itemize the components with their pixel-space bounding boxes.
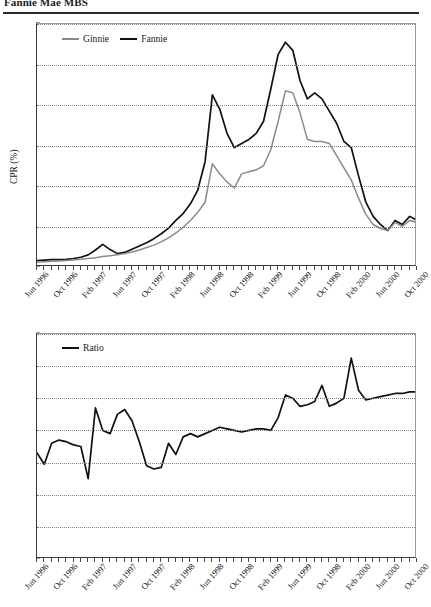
ratio-plot-area: [36, 333, 416, 558]
gridline: [37, 463, 415, 464]
x-tick-label: Oct 1998: [227, 562, 255, 592]
x-tick-label: Feb 1997: [81, 270, 109, 300]
x-tick-mark: [146, 266, 147, 270]
x-tick-mark: [168, 558, 169, 562]
x-tick-mark: [138, 558, 139, 562]
x-tick-mark: [168, 266, 169, 270]
x-tick-mark: [226, 266, 227, 270]
x-tick-mark: [153, 266, 154, 270]
x-tick-mark: [65, 266, 66, 270]
x-tick-mark: [153, 558, 154, 562]
gridline: [37, 334, 415, 335]
legend-item-fannie: Fannie: [120, 34, 167, 44]
x-tick-mark: [124, 266, 125, 270]
x-tick-mark: [36, 266, 37, 270]
x-tick-mark: [94, 266, 95, 270]
x-tick-mark: [284, 266, 285, 270]
x-tick-mark: [401, 558, 402, 562]
ratio-series-lines: [37, 334, 416, 558]
x-tick-label: Jun 1998: [198, 562, 226, 591]
x-tick-mark: [387, 266, 388, 270]
x-tick-mark: [109, 266, 110, 270]
gridline: [37, 24, 415, 25]
gridline: [37, 146, 415, 147]
legend-item-ginnie: Ginnie: [62, 34, 109, 44]
x-tick-mark: [255, 266, 256, 270]
gridline: [37, 65, 415, 66]
x-tick-label: Oct 1998: [227, 270, 255, 300]
x-tick-mark: [379, 558, 380, 562]
x-tick-mark: [255, 558, 256, 562]
legend-item-ratio: Ratio: [62, 343, 104, 353]
x-tick-label: Oct 1996: [52, 270, 80, 300]
x-tick-mark: [372, 558, 373, 562]
x-tick-label: Jun 1997: [111, 270, 139, 299]
x-tick-mark: [416, 558, 417, 562]
x-tick-label: Oct 1998: [315, 562, 343, 592]
x-tick-mark: [116, 558, 117, 562]
x-tick-label: Feb 1998: [169, 562, 197, 592]
legend-swatch-ginnie: [62, 38, 79, 40]
x-tick-mark: [94, 558, 95, 562]
x-tick-mark: [299, 558, 300, 562]
series-line-ratio: [37, 358, 416, 479]
x-tick-mark: [138, 266, 139, 270]
legend-swatch-ratio: [62, 347, 79, 349]
x-tick-mark: [51, 266, 52, 270]
x-tick-mark: [401, 266, 402, 270]
x-tick-label: Oct 1996: [52, 562, 80, 592]
x-tick-mark: [58, 266, 59, 270]
gridline: [37, 366, 415, 367]
x-tick-mark: [204, 558, 205, 562]
series-line-fannie: [37, 42, 416, 260]
gridline: [37, 186, 415, 187]
x-tick-label: Oct 2000: [403, 270, 431, 300]
x-tick-mark: [197, 266, 198, 270]
x-tick-mark: [204, 266, 205, 270]
x-tick-mark: [358, 558, 359, 562]
ratio-legend: Ratio: [62, 343, 104, 353]
x-tick-label: Feb 2000: [344, 562, 372, 592]
x-tick-mark: [270, 266, 271, 270]
x-tick-label: Feb 1998: [169, 270, 197, 300]
legend-swatch-fannie: [120, 38, 137, 40]
x-tick-label: Feb 1999: [256, 562, 284, 592]
x-tick-mark: [146, 558, 147, 562]
x-tick-mark: [80, 266, 81, 270]
x-tick-mark: [124, 558, 125, 562]
x-tick-mark: [241, 266, 242, 270]
x-tick-label: Feb 2000: [344, 270, 372, 300]
x-tick-mark: [65, 558, 66, 562]
x-tick-label: Jun 2000: [374, 562, 402, 591]
x-tick-label: Jun 1999: [286, 562, 314, 591]
ratio-chart: 00.20.40.60.81.01.21.4 Ratio Jun 1996Oct…: [0, 326, 422, 607]
x-tick-mark: [292, 558, 293, 562]
x-tick-label: Oct 1997: [140, 562, 168, 592]
x-tick-mark: [87, 266, 88, 270]
x-tick-mark: [87, 558, 88, 562]
x-tick-label: Oct 2000: [403, 562, 431, 592]
x-tick-mark: [241, 558, 242, 562]
cpr-legend: Ginnie Fannie: [62, 34, 167, 44]
x-tick-mark: [226, 558, 227, 562]
x-tick-mark: [197, 558, 198, 562]
x-tick-mark: [211, 558, 212, 562]
gridline: [37, 527, 415, 528]
x-tick-mark: [314, 558, 315, 562]
gridline: [37, 227, 415, 228]
x-tick-mark: [211, 266, 212, 270]
x-tick-mark: [292, 266, 293, 270]
x-tick-label: Jun 1999: [286, 270, 314, 299]
x-tick-mark: [175, 558, 176, 562]
x-tick-label: Oct 1998: [315, 270, 343, 300]
legend-label-fannie: Fannie: [141, 34, 167, 44]
x-tick-mark: [299, 266, 300, 270]
x-tick-mark: [116, 266, 117, 270]
x-tick-mark: [182, 558, 183, 562]
x-tick-mark: [175, 266, 176, 270]
x-tick-label: Jun 1997: [111, 562, 139, 591]
gridline: [37, 495, 415, 496]
x-tick-mark: [80, 558, 81, 562]
x-tick-mark: [416, 266, 417, 270]
